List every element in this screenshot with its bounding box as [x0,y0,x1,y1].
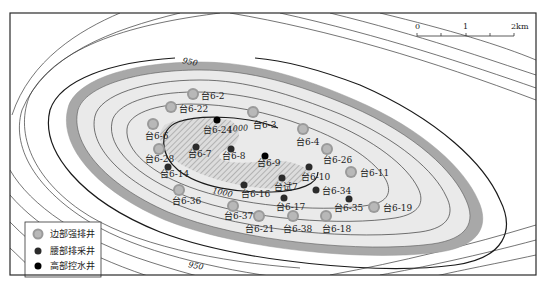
legend-label-high: 高部控水井 [50,260,95,271]
waist-well-icon [346,196,353,203]
waist-well-icon [306,164,313,171]
well-label: 台6-19 [383,202,412,213]
well-label: 台6-4 [296,136,320,147]
well-label: 台6-18 [322,223,351,234]
well-label: 台试7 [274,181,298,192]
well-label: 台6-37 [224,210,253,221]
well-label: 台6-7 [188,148,212,159]
legend-label-waist: 腰部排采井 [50,245,95,256]
structure-contour-map: 950 950 1000 1000 台6-2台6-22台6-3台6-6台6-24… [0,0,548,292]
well-label: 台6-11 [360,167,389,178]
high-well-legend-icon [35,263,42,270]
waist-well-icon [241,182,248,189]
scale-label-2km: 2km [511,22,529,31]
well-label: 台6-10 [301,171,330,182]
legend-label-edge: 边部强排井 [50,228,95,239]
well-edge: 台6-11 [345,166,389,178]
well-label: 台6-21 [245,223,274,234]
waist-well-icon [281,195,288,202]
well-label: 台6-14 [160,168,189,179]
scale-bar: 0 1 2km [415,22,529,36]
well-label: 台6-9 [257,157,281,168]
well-label: 台6-28 [145,153,174,164]
contour-label: 950 [188,260,205,272]
well-label: 台6-3 [253,119,277,130]
waist-well-legend-icon [35,248,42,255]
well-label: 台6-35 [334,202,363,213]
well-label: 台6-16 [241,188,270,199]
scale-label-1: 1 [463,22,468,31]
well-label: 台6-17 [276,201,305,212]
well-edge: 台6-19 [368,201,412,213]
well-label: 台6-8 [222,150,246,161]
high-well-icon [214,117,221,124]
well-label: 台6-34 [322,185,351,196]
well-label: 台6-22 [179,103,208,114]
legend: 边部强排井 腰部排采井 高部控水井 [25,222,101,277]
well-label: 台6-38 [283,223,312,234]
well-label: 台6-2 [201,90,225,101]
well-label: 台6-24 [203,124,232,135]
well-label: 台6-36 [172,195,201,206]
waist-well-icon [313,187,320,194]
waist-well-icon [279,175,286,182]
well-label: 台6-26 [323,154,352,165]
well-label: 台6-6 [145,130,169,141]
scale-label-0: 0 [415,22,420,31]
